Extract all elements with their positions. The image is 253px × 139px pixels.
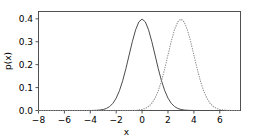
y-tick-label: 0.1 bbox=[19, 83, 33, 93]
probability-density-plot: −8−6−4−202460.00.10.20.30.4xp(x) bbox=[0, 0, 253, 139]
y-tick-label: 0.3 bbox=[19, 37, 33, 47]
axes-area: −8−6−4−202460.00.10.20.30.4xp(x) bbox=[3, 12, 241, 137]
y-tick-label: 0.2 bbox=[19, 60, 33, 70]
plot-frame bbox=[39, 12, 241, 111]
x-tick-label: −2 bbox=[110, 115, 123, 125]
x-tick-label: 2 bbox=[165, 115, 171, 125]
x-axis-title: x bbox=[124, 127, 130, 137]
x-tick-label: 6 bbox=[217, 115, 223, 125]
x-tick-label: −4 bbox=[84, 115, 98, 125]
y-axis-title: p(x) bbox=[3, 52, 13, 70]
x-tick-label: −8 bbox=[32, 115, 46, 125]
y-tick-label: 0.4 bbox=[19, 14, 34, 24]
curve-gaussian-mu-3 bbox=[39, 19, 241, 110]
x-tick-label: 4 bbox=[191, 115, 197, 125]
x-tick-label: −6 bbox=[58, 115, 72, 125]
y-tick-label: 0.0 bbox=[19, 106, 34, 116]
curve-gaussian-mu-0 bbox=[39, 19, 241, 110]
figure-canvas: −8−6−4−202460.00.10.20.30.4xp(x) bbox=[0, 0, 253, 139]
x-tick-label: 0 bbox=[139, 115, 145, 125]
